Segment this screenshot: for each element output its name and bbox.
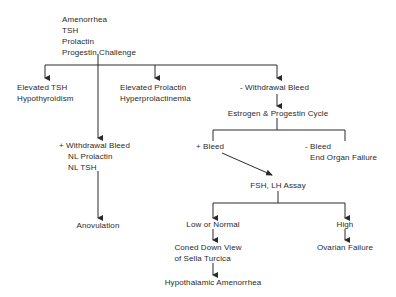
root-node: Amenorrhea TSH Prolactin Progestin Chall… — [62, 14, 136, 58]
node-fsh-lh-assay: FSH, LH Assay — [250, 180, 306, 191]
node-coned-view: Coned Down View of Sella Turcica — [174, 242, 241, 264]
node-anovulation: Anovulation — [77, 220, 120, 231]
root-line-amenorrhea: Amenorrhea — [62, 14, 136, 25]
node-text: of Sella Turcica — [174, 253, 241, 264]
node-low-normal: Low or Normal — [186, 219, 239, 230]
root-line-tsh: TSH — [62, 25, 136, 36]
node-estrogen-cycle: Estrogen & Progestin Cycle — [228, 108, 328, 119]
node-text: Coned Down View — [174, 242, 241, 253]
node-neg-withdrawal: - Withdrawal Bleed — [240, 82, 309, 93]
node-text: + Withdrawal Bleed — [59, 140, 130, 151]
node-elevated-prolactin: Elevated Prolactin Hyperprolactinemia — [120, 82, 191, 104]
node-text: Elevated Prolactin — [120, 82, 191, 93]
root-line-prolactin: Prolactin — [62, 36, 136, 47]
node-high: High — [337, 219, 354, 230]
node-text: - Bleed — [305, 141, 377, 152]
node-text: Hyperprolactinemia — [120, 93, 191, 104]
node-text: NL Prolactin — [59, 151, 130, 162]
node-pos-bleed: + Bleed — [196, 141, 224, 152]
node-text: Elevated TSH — [17, 82, 74, 93]
node-ovarian-failure: Ovarian Failure — [317, 242, 373, 253]
root-line-progestin: Progestin Challenge — [62, 47, 136, 58]
node-text: End Organ Failure — [305, 152, 377, 163]
node-neg-bleed: - Bleed End Organ Failure — [305, 141, 377, 163]
node-pos-withdrawal: + Withdrawal Bleed NL Prolactin NL TSH — [59, 140, 130, 173]
node-hypothalamic-amenorrhea: Hypothalamic Amenorrhea — [165, 277, 262, 288]
node-text: NL TSH — [59, 162, 130, 173]
node-elevated-tsh: Elevated TSH Hypothyroidism — [17, 82, 74, 104]
node-text: Hypothyroidism — [17, 93, 74, 104]
